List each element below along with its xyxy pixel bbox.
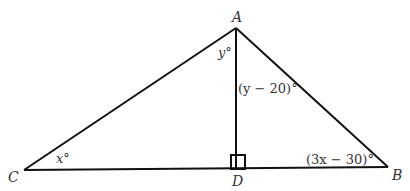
vertex-label-c: C — [8, 169, 19, 185]
vertex-label-b: B — [391, 167, 402, 183]
angle-label-b: (3x − 30)° — [306, 152, 374, 167]
angle-label-a-right: (y − 20)° — [238, 81, 298, 96]
angle-label-a-left: y° — [217, 45, 232, 60]
side-cb — [24, 167, 388, 170]
vertex-label-a: A — [230, 9, 242, 25]
angle-label-c: x° — [56, 151, 70, 166]
side-ab — [236, 28, 388, 167]
vertex-label-d: D — [231, 173, 243, 189]
triangle-diagram: A B C D x° y° (y − 20)° (3x − 30)° — [0, 0, 410, 191]
side-ca — [24, 28, 236, 170]
right-angle-marker — [231, 155, 245, 169]
